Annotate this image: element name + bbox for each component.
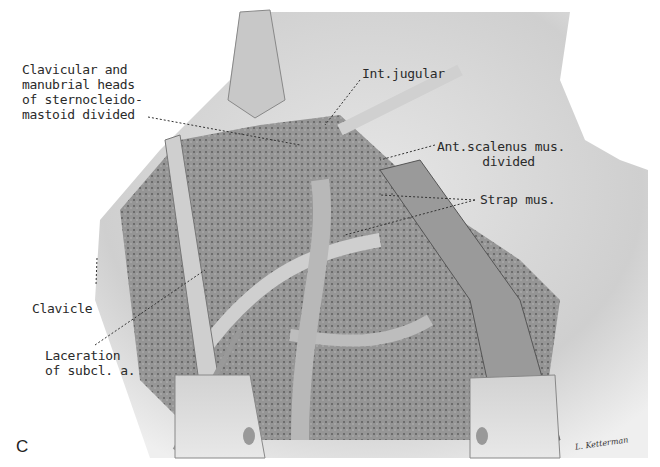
panel-letter: C (16, 437, 28, 457)
label-laceration: Laceration of subcl. a. (45, 348, 135, 378)
label-sternocleidomastoid: Clavicular and manubrial heads of sterno… (22, 62, 142, 122)
surgical-illustration: Clavicular and manubrial heads of sterno… (0, 0, 660, 467)
label-strap-muscle: Strap mus. (480, 192, 555, 207)
label-ant-scalenus: Ant.scalenus mus. divided (437, 139, 565, 169)
label-clavicle: Clavicle (32, 301, 92, 316)
label-int-jugular: Int.jugular (362, 66, 445, 81)
